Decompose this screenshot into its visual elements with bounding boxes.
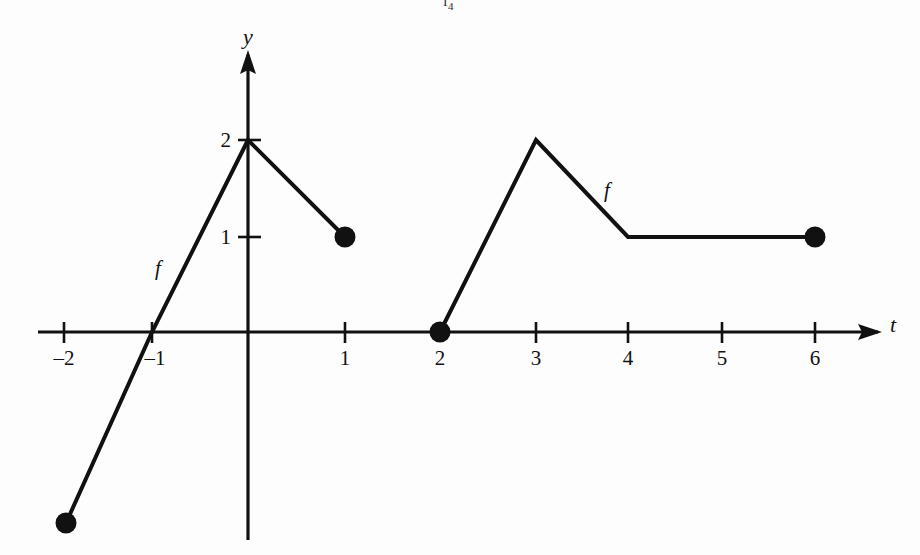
x-tick-label--1: –1 [145, 346, 166, 371]
x-tick-label-2: 2 [435, 346, 446, 371]
x-tick-label-6: 6 [810, 346, 821, 371]
endpoint-dot-1-1 [335, 227, 356, 248]
curve-label-f-left: f [155, 256, 161, 281]
plot-canvas [0, 0, 920, 555]
y-axis-label: y [243, 24, 253, 50]
curve-f-right-branch [440, 140, 815, 332]
endpoint-dot-6-1 [805, 227, 826, 248]
x-tick-label-5: 5 [717, 346, 728, 371]
x-axis-label: t [890, 312, 896, 338]
endpoint-dot-2-0 [430, 322, 451, 343]
x-tick-label--2: –2 [54, 346, 75, 371]
graph-figure: f4 [0, 0, 920, 555]
endpoint-dot-neg2-neg2 [56, 513, 77, 534]
y-tick-label-1: 1 [221, 225, 232, 250]
x-tick-label-1: 1 [340, 346, 351, 371]
curve-label-f-right: f [604, 178, 610, 203]
y-tick-label-2: 2 [221, 128, 232, 153]
x-tick-label-4: 4 [623, 346, 634, 371]
x-tick-label-3: 3 [531, 346, 542, 371]
